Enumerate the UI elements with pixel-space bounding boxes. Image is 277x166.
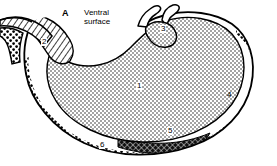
region-label-5: 5	[167, 127, 173, 135]
region-label-6: 6	[99, 141, 105, 149]
region-label-2: 2	[41, 38, 47, 46]
left-cut-edge-lower	[0, 28, 23, 64]
anatomical-figure: A Ventral surface 2 3 1 4 5 6	[0, 0, 277, 166]
region-label-1: 1	[136, 82, 142, 90]
region-label-4: 4	[226, 91, 232, 99]
panel-letter-a: A	[62, 9, 69, 18]
region-label-3: 3	[160, 25, 166, 33]
organ-outline-group	[0, 5, 267, 160]
figure-caption: Ventral surface	[84, 8, 140, 26]
